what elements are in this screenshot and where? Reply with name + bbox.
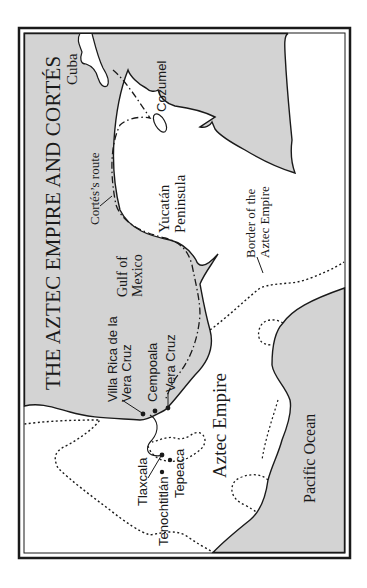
label-vera-cruz: Vera Cruz [164, 334, 177, 392]
map-canvas: THE AZTEC EMPIRE AND CORTÉS Cuba Cozumel… [0, 0, 367, 588]
label-tepeaca: Tepeaca [173, 449, 186, 498]
label-pacific-ocean: Pacific Ocean [302, 414, 318, 503]
label-tenochtitlan: Tenochtitlán [157, 477, 170, 546]
label-cozumel: Cozumel [155, 61, 168, 112]
tenochtitlan-dot [160, 470, 164, 474]
label-villa-rica: Villa Rica de la Vera Cruz [106, 316, 133, 402]
map-title: THE AZTEC EMPIRE AND CORTÉS [43, 56, 64, 390]
label-cortes-route: Cortés’s route [88, 152, 101, 225]
label-border: Border of the Aztec Empire [244, 186, 271, 258]
label-yucatan: Yucatán Peninsula [157, 175, 189, 233]
label-cempoala: Cempoala [146, 343, 159, 402]
label-cuba: Cuba [65, 53, 80, 85]
label-gulf-of-mexico: Gulf of Mexico [116, 254, 145, 297]
vera-cruz-dot [166, 406, 171, 411]
label-tlaxcala: Tlaxcala [136, 458, 149, 506]
label-aztec-empire: Aztec Empire [210, 373, 229, 478]
cempoala-dot [153, 409, 158, 414]
